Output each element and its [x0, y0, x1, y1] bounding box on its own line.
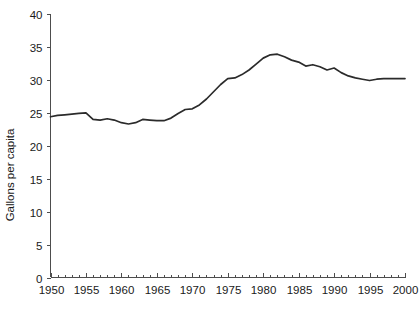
- y-axis-title: Gallons per capita: [4, 128, 16, 221]
- x-tick-label: 1975: [216, 284, 242, 296]
- y-tick-label: 5: [36, 240, 42, 252]
- x-tick-label: 2000: [393, 284, 419, 296]
- y-tick-label: 15: [30, 174, 43, 186]
- x-tick-label: 1965: [145, 284, 171, 296]
- chart-background: [0, 0, 419, 309]
- x-tick-label: 1955: [74, 284, 100, 296]
- chart-container: 0510152025303540 19501955196019651970197…: [0, 0, 419, 309]
- x-tick-label: 1995: [358, 284, 384, 296]
- y-tick-label: 40: [30, 9, 43, 21]
- y-tick-label: 35: [30, 42, 43, 54]
- x-tick-label: 1950: [39, 284, 65, 296]
- x-tick-label: 1960: [109, 284, 135, 296]
- y-tick-label: 10: [30, 207, 43, 219]
- x-tick-label: 1990: [322, 284, 348, 296]
- line-chart: 0510152025303540 19501955196019651970197…: [0, 0, 419, 309]
- y-tick-label: 30: [30, 75, 43, 87]
- x-tick-label: 1970: [180, 284, 206, 296]
- y-tick-label: 25: [30, 108, 43, 120]
- x-tick-label: 1980: [251, 284, 277, 296]
- x-tick-label: 1985: [287, 284, 313, 296]
- x-axis-tick-labels: 1950195519601965197019751980198519901995…: [39, 284, 419, 296]
- y-tick-label: 20: [30, 141, 43, 153]
